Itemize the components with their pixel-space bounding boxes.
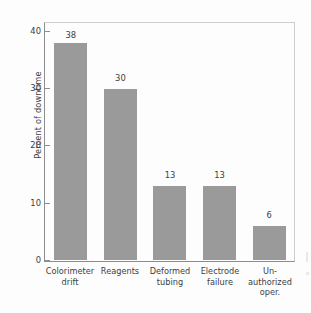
bar-slot: 13: [195, 23, 245, 260]
x-tick-label: Deformed tubing: [145, 266, 195, 287]
x-tick-label-line: Electrode: [195, 266, 245, 277]
bar: [54, 43, 87, 260]
y-axis-title: Percent of downtime: [33, 15, 43, 215]
bar-slot: 38: [46, 23, 96, 260]
x-axis-labels: Colorimeter drift Reagents Deformed tubi…: [45, 266, 295, 298]
bar-value-label: 13: [145, 170, 195, 180]
x-tick-label: Un- authorized oper.: [245, 266, 295, 298]
x-tick-label-line: failure: [195, 277, 245, 288]
bar-chart-figure: Percent of downtime 0 10 20 30 40 38: [0, 0, 311, 313]
scan-artifact: [306, 272, 309, 275]
y-tick-label: 10: [30, 198, 41, 208]
bar: [203, 186, 236, 260]
bar-slot: 13: [145, 23, 195, 260]
bar-value-label: 38: [46, 30, 96, 40]
bar-value-label: 30: [96, 73, 146, 83]
x-tick-label-line: drift: [45, 277, 95, 288]
bar: [153, 186, 186, 260]
bar-slot: 30: [96, 23, 146, 260]
bar: [104, 89, 137, 260]
bar-slot: 6: [244, 23, 294, 260]
x-tick-label-line: oper.: [245, 287, 295, 298]
x-tick-label: Electrode failure: [195, 266, 245, 287]
y-tick-label: 0: [36, 255, 41, 265]
bar: [253, 226, 286, 260]
y-tick-label: 30: [30, 83, 41, 93]
bar-series: 38 30 13 13 6: [46, 23, 294, 260]
plot-area: 0 10 20 30 40 38 30: [44, 22, 295, 262]
y-tick: 0: [45, 260, 50, 261]
x-tick-label-line: Un-: [245, 266, 295, 277]
bar-value-label: 13: [195, 170, 245, 180]
x-tick-label-line: tubing: [145, 277, 195, 288]
x-tick-label: Reagents: [95, 266, 145, 277]
y-tick-label: 20: [30, 140, 41, 150]
x-tick-label-line: authorized: [245, 277, 295, 288]
x-tick-label-line: Colorimeter: [45, 266, 95, 277]
scan-artifact: [306, 252, 308, 262]
x-tick-label-line: Reagents: [95, 266, 145, 277]
x-tick-label-line: Deformed: [145, 266, 195, 277]
y-tick-label: 40: [30, 26, 41, 36]
x-tick-label: Colorimeter drift: [45, 266, 95, 287]
bar-value-label: 6: [244, 210, 294, 220]
